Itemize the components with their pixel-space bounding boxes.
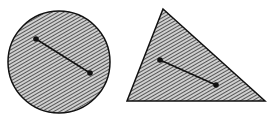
hatched-triangle <box>127 9 265 101</box>
hatched-circle <box>8 11 110 113</box>
circle-shape-group <box>8 11 110 113</box>
triangle-shape-group <box>127 9 265 101</box>
circle-segment-endpoint-2 <box>87 70 93 76</box>
convex-sets-diagram <box>0 0 272 122</box>
triangle-segment-endpoint-1 <box>157 57 163 63</box>
circle-segment-endpoint-1 <box>33 36 39 42</box>
triangle-segment-endpoint-2 <box>213 82 219 88</box>
